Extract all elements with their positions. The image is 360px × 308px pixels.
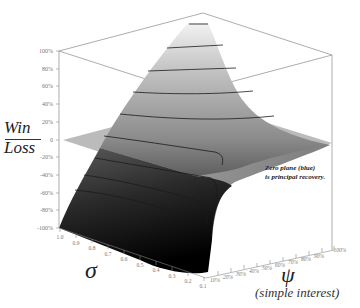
z-tick: -80% [40,207,53,213]
z-tick: 40% [42,101,53,107]
y-tick: 40% [249,268,260,274]
y-tick: 20% [223,274,234,280]
z-tick: 60% [42,83,53,89]
z-tick: 0 [50,137,53,143]
y-tick: 50% [262,265,273,271]
z-tick: 100% [39,48,53,54]
z-axis-label-denominator: Loss [4,139,35,156]
x-tick: 0.9 [73,240,80,246]
x-tick: 1.0 [57,234,64,240]
note-line-2: is principal recovery. [265,173,325,182]
z-tick: -100% [37,225,53,231]
y-tick: 80% [301,256,312,262]
note-line-1: Zero plane (blue) [265,164,325,173]
z-axis-label-numerator: Win [4,119,30,136]
zero-plane-note: Zero plane (blue) is principal recovery. [265,164,325,182]
z-axis [56,51,59,228]
z-tick: 80% [42,66,53,72]
x-tick: 0.4 [153,267,160,273]
x-tick: 0.2 [185,278,192,284]
z-tick: -40% [40,172,53,178]
x-tick: 0.8 [89,245,96,251]
y-tick: 90% [314,253,325,259]
z-tick: 20% [42,119,53,125]
x-tick: 0.3 [169,273,176,279]
y-tick: 30% [235,271,247,277]
y-tick: 10% [210,277,221,283]
y-axis-subtitle: (simple interest) [255,285,339,301]
z-tick: -60% [40,190,53,196]
x-tick: 0.1 [200,283,207,289]
z-tick: -20% [40,154,53,160]
y-tick-labels: 10% 20% 30% 40% 50% 60% 70% 80% 90% 100% [210,247,347,283]
x-tick: 0.7 [105,251,112,257]
x-axis-label: σ [85,257,97,284]
x-tick: 0.5 [137,262,144,268]
x-tick: 0.6 [121,256,128,262]
surface-chart: 100% 80% 60% 40% 20% 0 -20% -40% -60% -8… [0,0,360,308]
y-tick: 100% [334,247,347,253]
